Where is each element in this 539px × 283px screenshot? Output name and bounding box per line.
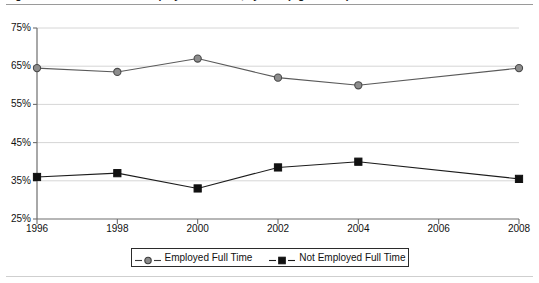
data-point-employed-full-time-2000 xyxy=(194,55,201,62)
legend-item-not-employed-full-time[interactable]: Not Employed Full Time xyxy=(269,252,405,263)
data-point-employed-full-time-2008 xyxy=(515,65,522,72)
figure-container: Figure 1. Percent of Adults Employed Ful… xyxy=(0,0,539,283)
x-tick-label-1998: 1998 xyxy=(94,224,140,234)
x-tick-label-2008: 2008 xyxy=(496,224,539,234)
bottom-divider xyxy=(6,276,533,277)
y-tick-label-75pct: 75% xyxy=(0,23,31,33)
circle-marker-icon xyxy=(135,252,161,263)
gridlines xyxy=(37,28,519,219)
data-point-not-employed-full-time-2008 xyxy=(515,175,522,182)
y-tick-label-65pct: 65% xyxy=(0,61,31,71)
y-tick-label-35pct: 35% xyxy=(0,176,31,186)
chart-canvas xyxy=(0,0,539,283)
data-point-employed-full-time-1996 xyxy=(33,65,40,72)
data-point-not-employed-full-time-2000 xyxy=(194,185,201,192)
data-point-not-employed-full-time-1996 xyxy=(33,173,40,180)
y-tick-label-45pct: 45% xyxy=(0,138,31,148)
legend-label-not-employed-full-time: Not Employed Full Time xyxy=(299,252,405,263)
data-point-not-employed-full-time-1998 xyxy=(114,170,121,177)
data-point-not-employed-full-time-2004 xyxy=(355,158,362,165)
data-point-employed-full-time-2002 xyxy=(274,74,281,81)
x-tick-label-2006: 2006 xyxy=(416,224,462,234)
chart-legend: Employed Full Time Not Employed Full Tim… xyxy=(131,248,409,267)
x-tick-label-2004: 2004 xyxy=(335,224,381,234)
x-tick-label-1996: 1996 xyxy=(14,224,60,234)
y-tick-label-55pct: 55% xyxy=(0,99,31,109)
legend-item-employed-full-time[interactable]: Employed Full Time xyxy=(135,252,253,263)
data-point-employed-full-time-2004 xyxy=(355,82,362,89)
data-point-employed-full-time-1998 xyxy=(114,68,121,75)
tick-marks xyxy=(33,28,519,224)
x-tick-label-2000: 2000 xyxy=(175,224,221,234)
plot-area: 75%65%55%45%35%25% 199619982000200220042… xyxy=(0,0,539,283)
legend-label-employed-full-time: Employed Full Time xyxy=(165,252,253,263)
square-marker-icon xyxy=(269,252,295,263)
data-point-not-employed-full-time-2002 xyxy=(274,164,281,171)
x-tick-label-2002: 2002 xyxy=(255,224,301,234)
